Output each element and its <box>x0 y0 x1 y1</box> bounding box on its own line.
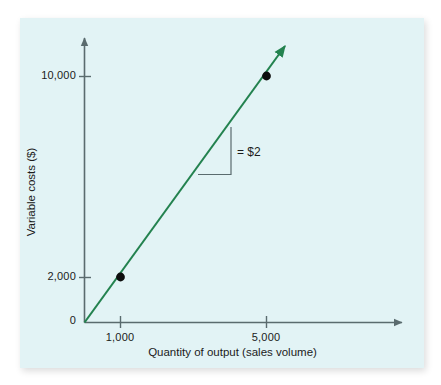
variable-cost-line <box>85 46 286 323</box>
slope-annotation-label: = $2 <box>237 145 261 159</box>
y-axis-title: Variable costs ($) <box>25 112 37 272</box>
chart-plot-area <box>0 0 441 385</box>
slope-triangle <box>198 127 231 175</box>
figure-container: 10,000 2,000 0 1,000 5,000 = $2 Quantity… <box>0 0 441 385</box>
y-tick-label-10000: 10,000 <box>26 69 76 81</box>
data-point-1000-2000 <box>116 273 125 282</box>
x-axis-title: Quantity of output (sales volume) <box>110 346 355 358</box>
data-point-5000-10000 <box>262 72 271 81</box>
origin-label: 0 <box>52 314 76 326</box>
x-tick-label-1000: 1,000 <box>96 331 144 343</box>
x-tick-label-5000: 5,000 <box>242 331 290 343</box>
